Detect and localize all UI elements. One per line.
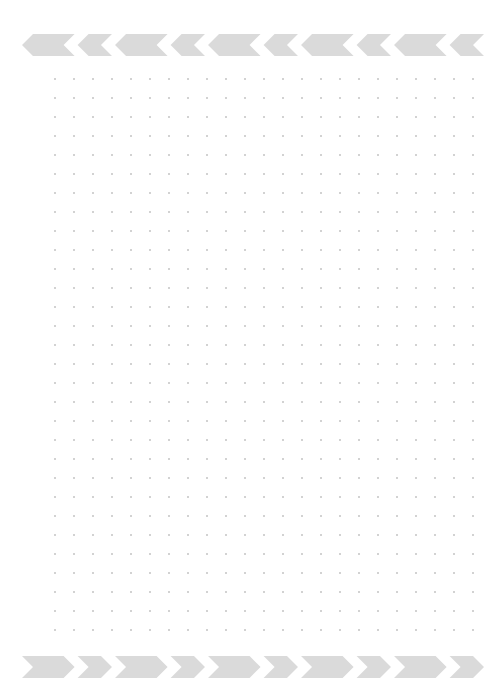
grid-dot [187,629,189,631]
grid-dot [130,401,132,403]
grid-dot [472,496,474,498]
grid-dot [206,515,208,517]
grid-dot [111,344,113,346]
grid-dot [358,154,360,156]
grid-dot [225,78,227,80]
grid-dot [54,116,56,118]
grid-dot [472,306,474,308]
grid-dot [168,553,170,555]
grid-dot [377,325,379,327]
grid-dot [73,629,75,631]
grid-dot [187,192,189,194]
grid-dot [282,306,284,308]
grid-dot [339,173,341,175]
grid-dot [263,154,265,156]
grid-dot [263,591,265,593]
dot-grid [0,0,504,692]
grid-dot [73,306,75,308]
grid-dot [187,116,189,118]
grid-dot [187,325,189,327]
grid-dot [149,553,151,555]
chevron-shape [450,656,484,678]
grid-dot [472,325,474,327]
grid-dot [187,363,189,365]
grid-dot [301,344,303,346]
grid-dot [339,496,341,498]
grid-dot [358,268,360,270]
grid-dot [111,192,113,194]
grid-dot [472,553,474,555]
grid-dot [206,306,208,308]
grid-dot [472,211,474,213]
grid-dot [434,610,436,612]
grid-dot [225,116,227,118]
grid-dot [263,610,265,612]
grid-dot [434,192,436,194]
grid-dot [206,572,208,574]
grid-dot [282,515,284,517]
grid-dot [453,363,455,365]
grid-dot [73,496,75,498]
grid-dot [92,211,94,213]
grid-dot [187,382,189,384]
grid-dot [358,97,360,99]
grid-dot [206,287,208,289]
grid-dot [263,553,265,555]
grid-dot [301,534,303,536]
grid-dot [434,458,436,460]
grid-dot [396,173,398,175]
grid-dot [206,249,208,251]
grid-dot [149,249,151,251]
grid-dot [415,477,417,479]
grid-dot [54,249,56,251]
grid-dot [187,97,189,99]
grid-dot [453,249,455,251]
grid-dot [453,287,455,289]
grid-dot [73,154,75,156]
grid-dot [92,192,94,194]
grid-dot [168,515,170,517]
grid-dot [472,249,474,251]
grid-dot [92,515,94,517]
grid-dot [453,401,455,403]
grid-dot [453,515,455,517]
grid-dot [244,496,246,498]
grid-dot [130,173,132,175]
grid-dot [130,439,132,441]
grid-dot [339,610,341,612]
grid-dot [472,458,474,460]
grid-dot [92,154,94,156]
grid-dot [168,116,170,118]
grid-dot [377,78,379,80]
grid-dot [54,629,56,631]
grid-dot [320,610,322,612]
grid-dot [149,211,151,213]
grid-dot [415,325,417,327]
grid-dot [377,192,379,194]
grid-dot [92,401,94,403]
grid-dot [434,477,436,479]
grid-dot [434,515,436,517]
grid-dot [358,515,360,517]
grid-dot [320,515,322,517]
grid-dot [244,173,246,175]
grid-dot [111,382,113,384]
grid-dot [358,211,360,213]
grid-dot [320,211,322,213]
grid-dot [225,382,227,384]
grid-dot [244,439,246,441]
grid-dot [206,116,208,118]
grid-dot [111,268,113,270]
grid-dot [54,610,56,612]
grid-dot [130,249,132,251]
grid-dot [92,382,94,384]
grid-dot [206,534,208,536]
grid-dot [168,477,170,479]
grid-dot [396,116,398,118]
grid-dot [472,420,474,422]
grid-dot [206,382,208,384]
grid-dot [472,572,474,574]
grid-dot [73,439,75,441]
grid-dot [472,629,474,631]
grid-dot [320,534,322,536]
